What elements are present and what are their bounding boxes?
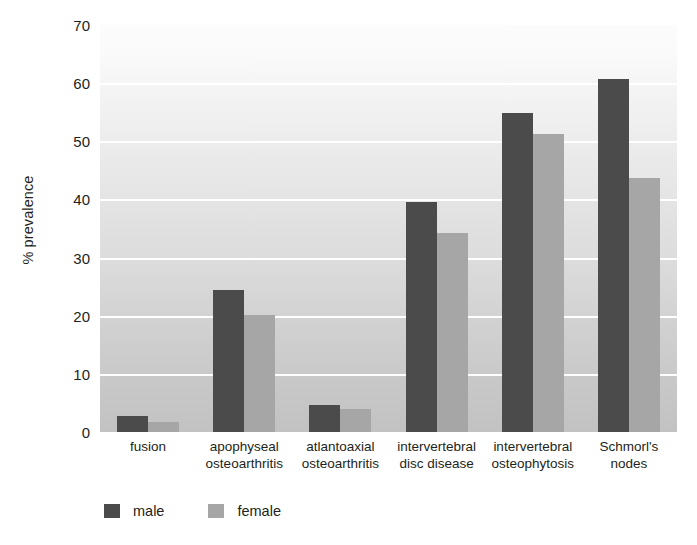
x-axis-label-line: fusion xyxy=(100,438,196,455)
x-axis-label-line: atlantoaxial xyxy=(292,438,388,455)
x-axis-label-line: osteoarthritis xyxy=(292,455,388,472)
y-axis-tick-0: 0 xyxy=(46,425,90,440)
x-axis-label-line: apophyseal xyxy=(196,438,292,455)
legend-item-male: male xyxy=(104,503,164,519)
x-axis-label-line: osteoarthritis xyxy=(196,455,292,472)
bar-female-4 xyxy=(533,134,564,432)
chart-legend: malefemale xyxy=(104,503,281,519)
legend-swatch-female xyxy=(208,504,224,518)
y-axis-tick-20: 20 xyxy=(46,308,90,323)
y-axis-tick-40: 40 xyxy=(46,192,90,207)
bar-group-3 xyxy=(389,25,485,432)
legend-label-female: female xyxy=(237,503,281,519)
bar-male-1 xyxy=(213,290,244,432)
x-axis-label-1: apophysealosteoarthritis xyxy=(196,438,292,484)
x-axis-label-line: disc disease xyxy=(389,455,485,472)
bar-group-0 xyxy=(100,25,196,432)
x-axis-label-2: atlantoaxialosteoarthritis xyxy=(292,438,388,484)
y-axis-title: % prevalence xyxy=(20,130,36,310)
x-axis-label-line: nodes xyxy=(581,455,677,472)
y-axis-tick-60: 60 xyxy=(46,76,90,91)
x-axis-category-labels: fusionapophysealosteoarthritisatlantoaxi… xyxy=(100,438,677,484)
x-axis-label-line: Schmorl's xyxy=(581,438,677,455)
legend-label-male: male xyxy=(133,503,164,519)
bar-group-4 xyxy=(485,25,581,432)
bar-chart: % prevalence 010203040506070 fusionapoph… xyxy=(0,0,697,545)
bar-female-2 xyxy=(340,409,371,432)
bar-male-0 xyxy=(117,416,148,432)
x-axis-label-5: Schmorl'snodes xyxy=(581,438,677,484)
x-axis-label-line: intervertebral xyxy=(389,438,485,455)
bar-female-5 xyxy=(629,178,660,432)
y-axis-tick-30: 30 xyxy=(46,250,90,265)
legend-item-female: female xyxy=(208,503,281,519)
x-axis-label-line: intervertebral xyxy=(485,438,581,455)
bar-group-1 xyxy=(196,25,292,432)
bar-female-0 xyxy=(148,422,179,432)
y-axis-tick-10: 10 xyxy=(46,366,90,381)
x-axis-label-0: fusion xyxy=(100,438,196,484)
bar-male-2 xyxy=(309,405,340,432)
x-axis-label-4: intervertebralosteophytosis xyxy=(485,438,581,484)
bar-male-3 xyxy=(406,202,437,432)
y-axis-tick-70: 70 xyxy=(46,18,90,33)
bar-group-2 xyxy=(292,25,388,432)
y-axis-tick-50: 50 xyxy=(46,134,90,149)
bar-male-4 xyxy=(502,113,533,432)
plot-area xyxy=(100,25,677,432)
bar-female-3 xyxy=(437,233,468,432)
bar-female-1 xyxy=(244,315,275,432)
bar-group-5 xyxy=(581,25,677,432)
legend-swatch-male xyxy=(104,504,120,518)
x-axis-label-line: osteophytosis xyxy=(485,455,581,472)
bars-layer xyxy=(100,25,677,432)
x-axis-label-3: intervertebraldisc disease xyxy=(389,438,485,484)
y-axis-tick-labels: 010203040506070 xyxy=(46,25,90,432)
bar-male-5 xyxy=(598,79,629,433)
